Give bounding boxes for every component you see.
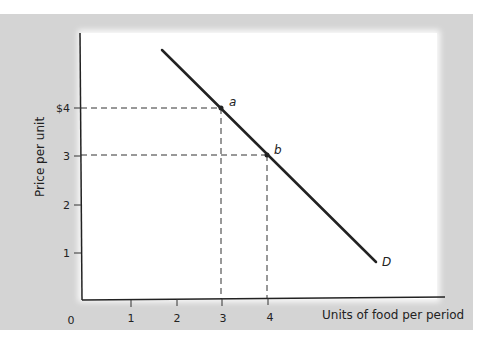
point-a-label: a bbox=[229, 95, 236, 109]
y-tick-label-3: 3 bbox=[63, 150, 70, 163]
x-tick-label-2: 2 bbox=[174, 312, 181, 325]
dashed-guides bbox=[81, 108, 267, 299]
x-tick-label-3: 3 bbox=[220, 312, 227, 325]
y-tick-label-1: 1 bbox=[63, 247, 70, 260]
demand-chart: $4 3 2 1 0 1 2 3 4 Units of food per per… bbox=[0, 0, 500, 346]
x-tick-label-4: 4 bbox=[267, 311, 274, 324]
origin-label: 0 bbox=[68, 314, 75, 327]
y-tick-label-4: $4 bbox=[56, 102, 70, 115]
point-a bbox=[219, 106, 224, 111]
x-tick-label-1: 1 bbox=[128, 312, 135, 325]
x-axis bbox=[82, 297, 445, 300]
y-ticks bbox=[74, 108, 81, 253]
y-axis bbox=[80, 33, 82, 300]
y-axis-title: Price per unit bbox=[33, 117, 47, 197]
y-tick-label-2: 2 bbox=[63, 199, 70, 212]
point-b-label: b bbox=[274, 143, 282, 157]
demand-curve-label: D bbox=[382, 255, 391, 269]
x-axis-title: Units of food per period bbox=[322, 308, 464, 322]
point-b bbox=[265, 153, 270, 158]
